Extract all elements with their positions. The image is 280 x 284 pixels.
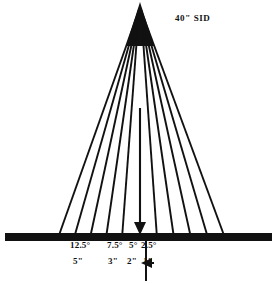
- angle-label-12-5: 12.5°: [70, 241, 90, 250]
- angle-label-5: 5°: [129, 241, 138, 250]
- distance-label-3in: 3": [108, 257, 118, 266]
- distance-label-1in: 1": [143, 257, 153, 266]
- sid-annotation-label: 40" SID: [175, 14, 210, 23]
- beam-divergence-figure: 40" SID 12.5° 7.5° 5° 2.5° 5" 3" 2" 1": [0, 0, 280, 284]
- image-receptor-bar: [5, 233, 272, 241]
- distance-label-2in: 2": [127, 257, 137, 266]
- angle-label-2-5: 2.5°: [141, 241, 157, 250]
- angle-label-7-5: 7.5°: [107, 241, 123, 250]
- beam-divergence-drawing: [0, 0, 280, 284]
- distance-label-5in: 5": [73, 257, 83, 266]
